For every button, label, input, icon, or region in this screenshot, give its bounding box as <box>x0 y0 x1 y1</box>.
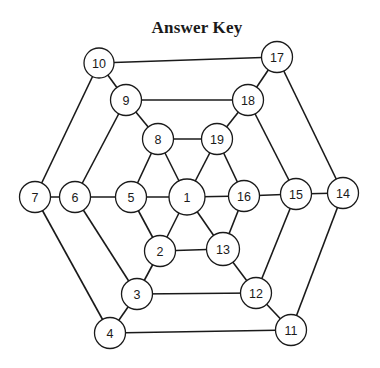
node-6: 6 <box>60 182 91 213</box>
node-label: 3 <box>134 288 141 302</box>
edge-10-17 <box>99 57 277 63</box>
node-label: 12 <box>249 287 263 301</box>
node-2: 2 <box>145 236 176 267</box>
node-label: 16 <box>237 190 251 204</box>
node-label: 19 <box>210 133 224 147</box>
node-15: 15 <box>281 179 312 210</box>
graph-canvas: 12345678910111213141516171819 <box>0 0 380 368</box>
node-label: 15 <box>289 188 303 202</box>
node-8: 8 <box>143 124 174 155</box>
node-7: 7 <box>20 182 51 213</box>
node-label: 7 <box>32 191 39 205</box>
node-label: 10 <box>92 57 106 71</box>
node-16: 16 <box>229 181 260 212</box>
node-label: 14 <box>336 187 350 201</box>
node-10: 10 <box>84 48 114 78</box>
edge-7-4 <box>35 197 110 333</box>
node-1: 1 <box>169 179 205 215</box>
node-17: 17 <box>262 42 293 73</box>
node-5: 5 <box>116 182 147 213</box>
node-label: 17 <box>270 51 284 65</box>
node-18: 18 <box>233 85 264 116</box>
node-label: 13 <box>216 243 230 257</box>
node-label: 6 <box>72 191 79 205</box>
edge-9-6 <box>75 100 126 197</box>
node-4: 4 <box>95 318 126 349</box>
node-13: 13 <box>207 233 240 266</box>
node-label: 11 <box>285 324 298 338</box>
node-9: 9 <box>111 85 142 116</box>
node-19: 19 <box>202 124 233 155</box>
node-label: 8 <box>155 133 162 147</box>
node-label: 1 <box>184 191 191 205</box>
edge-4-11 <box>110 330 291 333</box>
edge-14-11 <box>291 193 343 330</box>
node-3: 3 <box>122 279 153 310</box>
node-label: 2 <box>157 245 164 259</box>
node-label: 4 <box>107 327 114 341</box>
edge-10-7 <box>35 63 99 197</box>
node-12: 12 <box>241 278 272 309</box>
node-11: 11 <box>276 315 307 346</box>
edge-17-14 <box>277 57 343 193</box>
node-label: 9 <box>123 94 130 108</box>
node-14: 14 <box>328 178 359 209</box>
node-label: 18 <box>241 94 255 108</box>
edge-3-12 <box>137 293 256 294</box>
nodes-layer: 12345678910111213141516171819 <box>20 42 359 349</box>
node-label: 5 <box>128 191 135 205</box>
